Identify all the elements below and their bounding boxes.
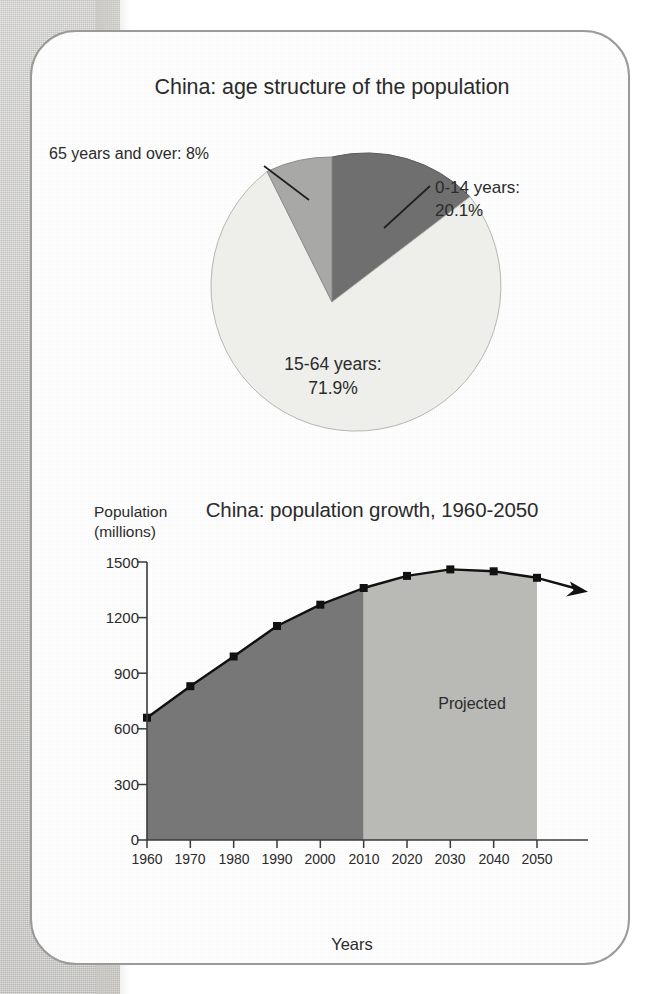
data-point-2010: [360, 584, 368, 592]
projected-annotation: Projected: [387, 695, 557, 713]
area-historical: [147, 588, 364, 840]
data-point-1980: [230, 653, 238, 661]
figure-card: China: age structure of the population 6…: [30, 30, 630, 965]
data-point-2000: [316, 601, 324, 609]
x-tick-2050: 2050: [511, 851, 563, 867]
data-point-2030: [446, 565, 454, 573]
data-point-2040: [490, 567, 498, 575]
line-chart: [32, 32, 630, 965]
data-point-1970: [186, 682, 194, 690]
data-point-1990: [273, 622, 281, 630]
data-point-2050: [533, 574, 541, 582]
x-axis-label: Years: [262, 935, 442, 954]
trend-arrow-head: [566, 582, 588, 597]
data-point-2020: [403, 572, 411, 580]
